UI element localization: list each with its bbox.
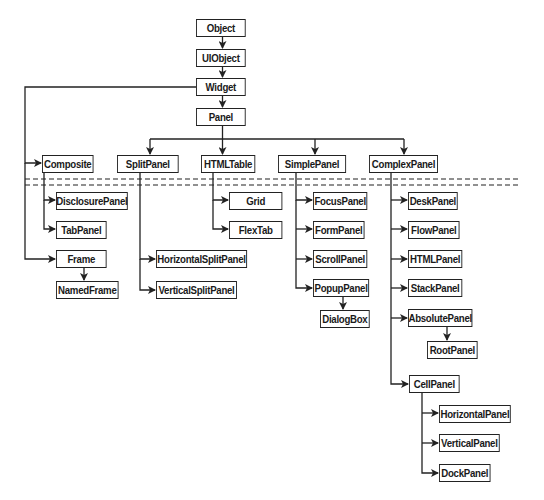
node-disclosurepanel: DisclosurePanel bbox=[56, 192, 128, 210]
node-htmlpanel: HTMLPanel bbox=[408, 250, 462, 268]
node-object: Object bbox=[196, 19, 246, 37]
node-uiobject: UIObject bbox=[196, 49, 246, 67]
node-popuppanel: PopupPanel bbox=[313, 279, 369, 297]
node-flextable: FlexTab bbox=[229, 221, 282, 239]
node-panel: Panel bbox=[196, 108, 246, 126]
node-complexpanel: ComplexPanel bbox=[369, 155, 438, 173]
node-rootpanel: RootPanel bbox=[427, 341, 478, 359]
node-absolutepanel: AbsolutePanel bbox=[408, 309, 472, 327]
node-horizontalpanel: HorizontalPanel bbox=[439, 405, 511, 423]
node-composite: Composite bbox=[42, 155, 94, 173]
node-frame: Frame bbox=[56, 250, 107, 268]
node-deskpanel: DeskPanel bbox=[408, 192, 458, 210]
node-verticalsplitpanel: VerticalSplitPanel bbox=[156, 281, 237, 299]
node-verticalpanel: VerticalPanel bbox=[439, 434, 500, 452]
node-widget: Widget bbox=[196, 78, 246, 96]
node-tabpanel: TabPanel bbox=[56, 221, 107, 239]
node-focuspanel: FocusPanel bbox=[313, 192, 367, 210]
node-namedframe: NamedFrame bbox=[56, 281, 119, 299]
node-dockpanel: DockPanel bbox=[439, 464, 491, 482]
node-scrollpanel: ScrollPanel bbox=[313, 250, 367, 268]
node-stackpanel: StackPanel bbox=[408, 279, 462, 297]
node-htmltable: HTMLTable bbox=[201, 155, 255, 173]
node-grid: Grid bbox=[229, 192, 282, 210]
dashed-separator bbox=[25, 179, 518, 185]
node-flowpanel: FlowPanel bbox=[408, 221, 460, 239]
node-simplepanel: SimplePanel bbox=[278, 155, 346, 173]
node-horizontalsplitpanel: HorizontalSplitPanel bbox=[156, 250, 247, 268]
node-cellpanel: CellPanel bbox=[409, 375, 460, 393]
class-hierarchy-diagram: Object UIObject Widget Panel Composite S… bbox=[0, 0, 544, 500]
node-formpanel: FormPanel bbox=[313, 221, 365, 239]
node-dialogbox: DialogBox bbox=[320, 310, 370, 328]
node-splitpanel: SplitPanel bbox=[117, 155, 179, 173]
